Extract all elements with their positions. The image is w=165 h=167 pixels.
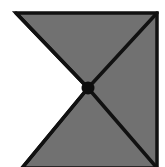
- polygon-diagram: [0, 0, 165, 167]
- center-vertex-dot: [82, 82, 95, 95]
- figure-canvas: [0, 0, 165, 167]
